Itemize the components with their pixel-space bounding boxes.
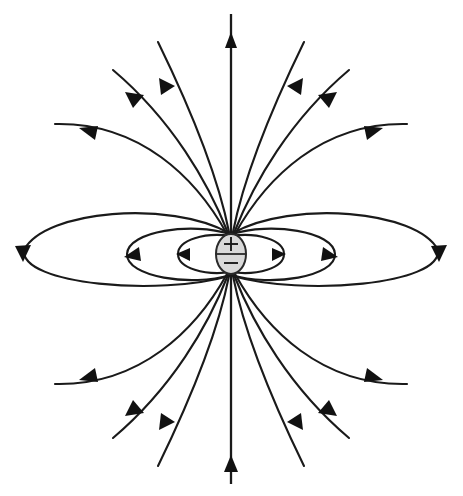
arrowhead-loop-outer-left (15, 245, 31, 262)
polar-lr-line-1 (233, 276, 304, 466)
arrowhead-lr-2 (318, 400, 337, 416)
polar-lines-upper-right (233, 42, 407, 234)
arrowhead-lr-1 (287, 413, 303, 430)
arrowhead-ll-2 (125, 400, 144, 416)
arrowhead-ur-2 (318, 92, 337, 108)
polar-ur-line-1 (233, 42, 304, 232)
polar-lines-lower-left (55, 274, 229, 466)
polar-ul-line-1 (158, 42, 229, 232)
arrowhead-ll-1 (159, 413, 175, 430)
arrowhead-ll-3 (79, 368, 98, 382)
arrowhead-ul-1 (159, 78, 175, 95)
arrowhead-axis-top (225, 32, 237, 48)
arrowhead-ul-2 (125, 92, 144, 108)
arrowhead-axis-bottom (224, 455, 238, 472)
field-line-diagram (0, 0, 463, 496)
arrowhead-loop-outer-right (431, 245, 447, 262)
arrowhead-ur-3 (364, 126, 383, 140)
magnetic-dipole-figure: Magnetic dipole field lines Field lines … (0, 0, 463, 496)
polar-lines-lower-right (233, 274, 407, 466)
dipole-magnet (216, 234, 246, 274)
polar-ll-line-1 (158, 276, 229, 466)
arrowhead-ur-1 (287, 78, 303, 95)
polar-lines-upper-left (55, 42, 229, 234)
arrowhead-ul-3 (79, 126, 98, 140)
arrowhead-lr-3 (364, 368, 383, 382)
loop-outer-right-path (233, 213, 438, 286)
loop-outer-left-path (24, 213, 229, 286)
